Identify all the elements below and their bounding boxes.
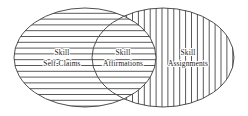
label-affirmations-line2: Affirmations [103,59,143,68]
label-assignments-line1: Skill [181,48,196,57]
label-self-claims-line2: Self-Claims [43,59,80,68]
label-assignments-line2: Assignments [168,59,208,68]
label-affirmations-line1: Skill [116,48,131,57]
label-self-claims-line1: Skill [55,48,70,57]
venn-diagram-canvas: Skill Self-Claims Skill Affirmations Ski… [0,0,248,116]
venn-diagram: Skill Self-Claims Skill Affirmations Ski… [0,0,248,116]
